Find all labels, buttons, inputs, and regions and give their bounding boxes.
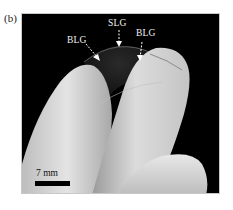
panel-label: (b) xyxy=(4,12,17,24)
glove-fingers-illustration xyxy=(22,14,220,194)
scale-bar xyxy=(35,181,70,186)
scale-bar-label: 7 mm xyxy=(36,168,58,178)
annotation-blg-right: BLG xyxy=(136,28,156,38)
annotation-slg: SLG xyxy=(108,18,127,28)
figure-photo: BLG SLG BLG 7 mm xyxy=(21,13,220,194)
annotation-blg-left: BLG xyxy=(67,35,87,45)
